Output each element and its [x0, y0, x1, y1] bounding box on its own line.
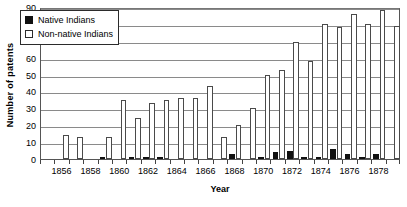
bar-non-native-indians — [77, 137, 83, 159]
x-tick — [342, 160, 343, 164]
x-tick — [299, 160, 300, 164]
y-tick-label: 20 — [26, 122, 36, 131]
bar-native-indians — [301, 157, 307, 159]
bar-group — [271, 9, 285, 159]
bar-native-indians — [157, 157, 163, 159]
y-tick-label: 10 — [26, 139, 36, 148]
x-tick — [198, 160, 199, 164]
x-tick — [98, 160, 99, 164]
bar-non-native-indians — [221, 137, 227, 159]
bar-native-indians — [258, 157, 264, 159]
bar-group — [257, 9, 271, 159]
bar-native-indians — [143, 157, 149, 159]
bar-group — [315, 9, 329, 159]
bar-non-native-indians — [279, 70, 285, 160]
x-tick-label: 1870 — [253, 166, 273, 176]
legend-label-non-native: Non-native Indians — [38, 29, 113, 39]
patents-bar-chart: Number of patents 0102030405060708090 Na… — [0, 0, 407, 207]
x-tick — [69, 160, 70, 164]
bar-group — [387, 9, 401, 159]
bar-non-native-indians — [178, 98, 184, 159]
x-tick — [141, 160, 142, 164]
bar-group — [300, 9, 314, 159]
x-axis-tick-labels: 1856185818601862186418661868187018721874… — [40, 166, 400, 180]
legend-swatch-filled-square-icon — [25, 16, 33, 24]
y-axis-title-label: Number of patents — [5, 43, 15, 128]
x-tick-label: 1874 — [311, 166, 331, 176]
x-tick — [314, 160, 315, 164]
y-tick-label: 50 — [26, 71, 36, 80]
bar-non-native-indians — [135, 118, 141, 159]
bar-group — [156, 9, 170, 159]
bar-native-indians — [100, 157, 106, 159]
x-tick — [213, 160, 214, 164]
x-tick-label: 1864 — [167, 166, 187, 176]
bar-non-native-indians — [337, 27, 343, 159]
x-tick — [83, 160, 84, 164]
chart-legend: Native Indians Non-native Indians — [20, 10, 119, 45]
legend-label-native: Native Indians — [38, 15, 95, 25]
x-tick-label: 1868 — [224, 166, 244, 176]
bar-group — [142, 9, 156, 159]
x-tick-label: 1860 — [109, 166, 129, 176]
x-tick — [256, 160, 257, 164]
bar-non-native-indians — [322, 24, 328, 159]
bar-group — [372, 9, 386, 159]
bar-group — [185, 9, 199, 159]
bar-non-native-indians — [236, 125, 242, 159]
bar-non-native-indians — [193, 98, 199, 159]
bar-native-indians — [229, 154, 235, 159]
bar-native-indians — [345, 154, 351, 159]
x-tick — [357, 160, 358, 164]
x-tick — [285, 160, 286, 164]
x-tick — [184, 160, 185, 164]
bar-non-native-indians — [394, 26, 400, 159]
x-tick-label: 1856 — [52, 166, 72, 176]
bar-native-indians — [316, 157, 322, 159]
legend-item-non-native: Non-native Indians — [25, 27, 113, 41]
bar-group — [286, 9, 300, 159]
x-tick — [270, 160, 271, 164]
bar-native-indians — [287, 151, 293, 159]
bar-group — [343, 9, 357, 159]
bar-group — [171, 9, 185, 159]
y-tick-label: 30 — [26, 105, 36, 114]
bar-group — [127, 9, 141, 159]
y-tick-label: 40 — [26, 88, 36, 97]
x-tick — [170, 160, 171, 164]
bar-non-native-indians — [63, 135, 69, 159]
bar-native-indians — [330, 149, 336, 159]
legend-item-native: Native Indians — [25, 13, 113, 27]
x-tick — [112, 160, 113, 164]
x-tick-label: 1872 — [282, 166, 302, 176]
x-tick — [371, 160, 372, 164]
legend-swatch-hollow-square-icon — [25, 30, 33, 38]
x-tick-label: 1878 — [368, 166, 388, 176]
x-tick — [227, 160, 228, 164]
x-tick-label: 1862 — [138, 166, 158, 176]
bar-non-native-indians — [365, 24, 371, 159]
x-tick-label: 1858 — [80, 166, 100, 176]
bar-non-native-indians — [207, 86, 213, 159]
x-tick — [242, 160, 243, 164]
bar-group — [228, 9, 242, 159]
x-tick — [386, 160, 387, 164]
bar-non-native-indians — [250, 108, 256, 159]
bar-group — [199, 9, 213, 159]
x-tick — [126, 160, 127, 164]
bar-native-indians — [359, 157, 365, 159]
bar-non-native-indians — [380, 10, 386, 159]
x-tick — [40, 160, 41, 164]
x-tick — [155, 160, 156, 164]
bar-non-native-indians — [164, 100, 170, 159]
x-tick — [54, 160, 55, 164]
x-tick — [399, 160, 400, 164]
bar-native-indians — [273, 152, 279, 159]
bar-non-native-indians — [121, 100, 127, 159]
bar-group — [243, 9, 257, 159]
bar-non-native-indians — [351, 14, 357, 159]
bar-group — [329, 9, 343, 159]
x-tick-label: 1866 — [196, 166, 216, 176]
y-tick-label: 0 — [31, 156, 36, 165]
bar-group — [214, 9, 228, 159]
